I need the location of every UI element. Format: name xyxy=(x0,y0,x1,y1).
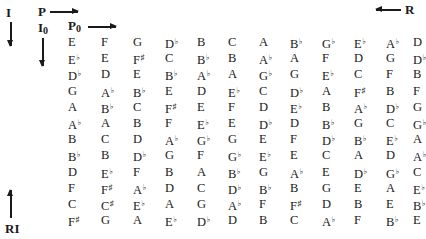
matrix-cell: G xyxy=(165,148,174,162)
matrix-cell: E xyxy=(228,116,236,130)
flat-sign-icon: ♭ xyxy=(237,167,241,176)
flat-sign-icon: ♭ xyxy=(175,37,179,46)
flat-sign-icon: ♭ xyxy=(395,215,399,224)
matrix-cell: B xyxy=(413,67,421,81)
retrograde-label: R xyxy=(405,3,414,16)
matrix-cell: G xyxy=(197,197,206,211)
matrix-cell: D xyxy=(228,213,237,227)
flat-sign-icon: ♭ xyxy=(423,118,426,127)
matrix-cell: A♭ xyxy=(354,100,367,116)
matrix-cell: E♭ xyxy=(290,100,302,116)
matrix-cell: B♭ xyxy=(290,35,303,51)
flat-sign-icon: ♭ xyxy=(363,134,367,143)
matrix-cell: D xyxy=(290,116,299,130)
flat-sign-icon: ♭ xyxy=(78,118,82,127)
flat-sign-icon: ♭ xyxy=(396,37,400,46)
matrix-cell: D xyxy=(101,67,110,81)
matrix-cell: E xyxy=(101,51,109,65)
matrix-cell: D xyxy=(68,165,77,179)
matrix-cell: B xyxy=(322,100,330,114)
flat-sign-icon: ♭ xyxy=(76,53,80,62)
flat-sign-icon: ♭ xyxy=(396,167,400,176)
matrix-cell: F xyxy=(259,197,266,211)
flat-sign-icon: ♭ xyxy=(110,102,114,111)
flat-sign-icon: ♭ xyxy=(143,150,147,159)
matrix-cell: D xyxy=(165,181,174,195)
matrix-cell: C xyxy=(259,84,267,98)
matrix-cell: A xyxy=(413,132,422,146)
matrix-cell: F♯ xyxy=(290,197,301,213)
flat-sign-icon: ♭ xyxy=(143,183,147,192)
matrix-cell: F♯ xyxy=(68,213,79,229)
matrix-cell: E♭ xyxy=(413,181,425,197)
matrix-cell: G♭ xyxy=(322,35,335,51)
matrix-cell: A xyxy=(322,84,331,98)
matrix-cell: E♭ xyxy=(133,197,145,213)
matrix-cell: E♭ xyxy=(228,84,240,100)
flat-sign-icon: ♭ xyxy=(300,167,304,176)
matrix-cell: F xyxy=(413,84,420,98)
inversion-label: I xyxy=(6,6,11,19)
matrix-cell: F xyxy=(165,116,172,130)
matrix-cell: C xyxy=(322,148,330,162)
prime-label: P xyxy=(38,5,46,18)
matrix-cell: D♭ xyxy=(228,181,241,197)
matrix-cell: G xyxy=(354,116,363,130)
matrix-cell: G xyxy=(413,100,422,114)
matrix-cell: A♭ xyxy=(165,132,178,148)
flat-sign-icon: ♭ xyxy=(394,134,398,143)
matrix-cell: D♭ xyxy=(197,213,210,229)
flat-sign-icon: ♭ xyxy=(173,215,177,224)
retrograde-inversion-arrow-up-icon xyxy=(10,190,12,218)
flat-sign-icon: ♭ xyxy=(77,150,81,159)
matrix-cell: C xyxy=(354,67,362,81)
inversion-zero-arrow-down-icon xyxy=(42,38,44,66)
flat-sign-icon: ♭ xyxy=(364,102,368,111)
matrix-cell: A♭ xyxy=(413,148,426,164)
flat-sign-icon: ♭ xyxy=(206,53,210,62)
prime-zero-arrow-right-icon xyxy=(88,26,116,28)
flat-sign-icon: ♭ xyxy=(331,118,335,127)
matrix-cell: D♭ xyxy=(133,148,146,164)
matrix-cell: D xyxy=(413,35,422,49)
inversion-arrow-down-icon xyxy=(10,22,12,46)
flat-sign-icon: ♭ xyxy=(332,134,336,143)
matrix-cell: C xyxy=(413,165,421,179)
matrix-cell: F xyxy=(68,181,75,195)
matrix-cell: B xyxy=(101,148,109,162)
retrograde-arrow-left-icon xyxy=(376,9,401,11)
matrix-cell: G♭ xyxy=(228,148,241,164)
matrix-cell: E♭ xyxy=(259,148,271,164)
matrix-cell: A♭ xyxy=(101,84,114,100)
matrix-cell: A xyxy=(197,165,206,179)
matrix-cell: G♭ xyxy=(197,132,210,148)
matrix-cell: A xyxy=(290,51,299,65)
matrix-cell: C xyxy=(290,213,298,227)
flat-sign-icon: ♭ xyxy=(142,86,146,95)
matrix-cell: E♭ xyxy=(197,116,209,132)
matrix-cell: B xyxy=(228,51,236,65)
matrix-cell: B xyxy=(354,197,362,211)
matrix-cell: E xyxy=(322,165,330,179)
matrix-cell: B♭ xyxy=(165,67,178,83)
matrix-cell: D xyxy=(259,100,268,114)
flat-sign-icon: ♭ xyxy=(300,86,304,95)
matrix-cell: G♭ xyxy=(386,165,399,181)
matrix-cell: B♭ xyxy=(101,100,114,116)
matrix-cell: E xyxy=(68,35,76,49)
matrix-cell: E xyxy=(290,148,298,162)
flat-sign-icon: ♭ xyxy=(332,37,336,46)
flat-sign-icon: ♭ xyxy=(238,150,242,159)
matrix-cell: D♭ xyxy=(386,100,399,116)
matrix-cell: B xyxy=(259,213,267,227)
matrix-cell: A♭ xyxy=(197,67,210,83)
matrix-cell: D xyxy=(322,197,331,211)
matrix-cell: A xyxy=(68,100,77,114)
matrix-cell: F♯ xyxy=(133,51,144,67)
matrix-cell: C♯ xyxy=(101,197,114,213)
flat-sign-icon: ♭ xyxy=(269,118,273,127)
inversion-zero-subscript: 0 xyxy=(43,25,48,36)
sharp-sign-icon: ♯ xyxy=(108,183,112,192)
matrix-cell: E♭ xyxy=(386,132,398,148)
flat-sign-icon: ♭ xyxy=(109,167,113,176)
